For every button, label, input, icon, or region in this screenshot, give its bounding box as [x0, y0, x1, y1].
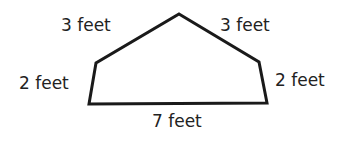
- label-bottom-side: 7 feet: [152, 113, 202, 130]
- label-left-side: 2 feet: [19, 75, 69, 92]
- label-right-side: 2 feet: [275, 72, 325, 89]
- pentagon-diagram: 3 feet 3 feet 2 feet 2 feet 7 feet: [0, 0, 353, 142]
- label-top-left-side: 3 feet: [61, 17, 111, 34]
- label-top-right-side: 3 feet: [220, 17, 270, 34]
